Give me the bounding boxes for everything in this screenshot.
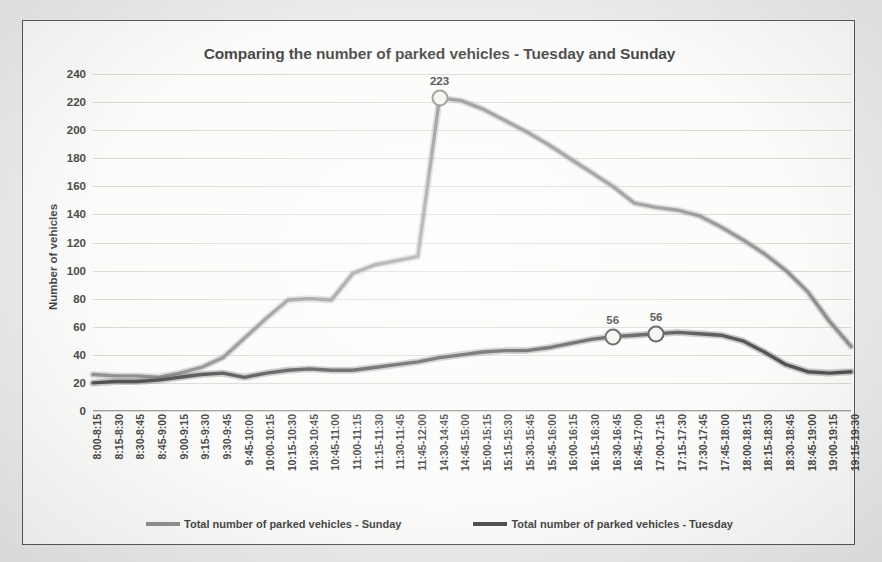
x-axis-tick: 16:00-16:15 [567, 414, 579, 471]
data-point-label: 56 [650, 311, 663, 323]
x-axis-tick: 10:15-10:30 [286, 414, 298, 471]
x-axis-tick: 17:00-17:15 [654, 414, 666, 471]
x-axis-tick: 16:30-16:45 [611, 414, 623, 471]
x-axis-tick: 15:15-15:30 [502, 414, 514, 471]
y-axis-tick: 100 [67, 265, 86, 277]
x-axis-tick: 9:30-9:45 [221, 414, 233, 460]
x-axis-tick: 15:30-15:45 [524, 414, 536, 471]
legend-item-tuesday[interactable]: Total number of parked vehicles - Tuesda… [473, 518, 732, 530]
x-axis-tick: 8:45-9:00 [156, 414, 168, 460]
data-point-label: 56 [606, 314, 619, 326]
x-axis-tick: 9:45-10:00 [243, 414, 255, 465]
x-axis-labels: 8:00-8:158:15-8:308:30-8:458:45-9:009:00… [93, 414, 851, 509]
x-axis-tick: 10:00-10:15 [264, 414, 276, 471]
x-axis-tick: 11:30-11:45 [394, 414, 406, 470]
data-point-marker [648, 325, 665, 342]
x-axis-tick: 15:45-16:00 [546, 414, 558, 471]
x-axis-tick: 18:45-19:00 [806, 414, 818, 471]
y-axis-tick: 120 [67, 237, 86, 249]
y-axis-tick: 60 [73, 321, 86, 333]
x-axis-tick: 17:45-18:00 [719, 414, 731, 471]
chart-title: Comparing the number of parked vehicles … [23, 45, 856, 63]
chart-container: Comparing the number of parked vehicles … [22, 20, 855, 545]
x-axis-tick: 11:15-11:30 [373, 414, 385, 470]
legend-label-sunday: Total number of parked vehicles - Sunday [184, 518, 401, 530]
y-axis-tick: 220 [67, 96, 86, 108]
y-axis-tick: 20 [73, 377, 86, 389]
y-axis-tick: 240 [67, 68, 86, 80]
x-axis-tick: 19:15-19:30 [849, 414, 861, 471]
y-axis-tick: 140 [67, 208, 86, 220]
x-axis-tick: 8:30-8:45 [134, 414, 146, 460]
x-axis-tick: 18:15-18:30 [762, 414, 774, 471]
y-axis-label: Number of vehicles [47, 204, 59, 310]
y-axis-tick: 200 [67, 124, 86, 136]
x-axis-tick: 9:00-9:15 [178, 414, 190, 460]
x-axis-tick: 11:45-12:00 [416, 414, 428, 471]
x-axis-tick: 17:15-17:30 [676, 414, 688, 471]
x-axis-tick: 15:00-15:15 [481, 414, 493, 471]
x-axis-tick: 16:15-16:30 [589, 414, 601, 471]
y-axis-tick: 80 [73, 293, 86, 305]
x-axis-tick: 8:00-8:15 [91, 414, 103, 460]
x-axis-tick: 17:30-17:45 [697, 414, 709, 471]
y-axis-tick: 40 [73, 349, 86, 361]
data-point-marker [431, 89, 448, 106]
gridline: 0 [93, 411, 851, 412]
data-point-label: 223 [430, 75, 449, 87]
x-axis-tick: 18:00-18:15 [741, 414, 753, 471]
x-axis-tick: 10:30-10:45 [308, 414, 320, 471]
x-axis-tick: 18:30-18:45 [784, 414, 796, 471]
x-axis-tick: 8:15-8:30 [113, 414, 125, 460]
x-axis-tick: 11:00-11:15 [351, 414, 363, 470]
y-axis-tick: 180 [67, 152, 86, 164]
x-axis-tick: 16:45-17:00 [632, 414, 644, 471]
y-axis-tick: 0 [80, 405, 86, 417]
data-point-marker [604, 328, 621, 345]
x-axis-tick: 9:15-9:30 [199, 414, 211, 460]
series-lines [93, 74, 851, 411]
legend-label-tuesday: Total number of parked vehicles - Tuesda… [511, 518, 732, 530]
y-axis-tick: 160 [67, 180, 86, 192]
legend-item-sunday[interactable]: Total number of parked vehicles - Sunday [146, 518, 401, 530]
legend-swatch-tuesday [473, 522, 507, 526]
x-axis-tick: 14:45-15:00 [459, 414, 471, 471]
legend-swatch-sunday [146, 522, 180, 526]
chart-legend: Total number of parked vehicles - Sunday… [23, 518, 856, 530]
x-axis-tick: 19:00-19:15 [827, 414, 839, 471]
x-axis-tick: 14:30-14:45 [438, 414, 450, 471]
x-axis-tick: 10:45-11:00 [329, 414, 341, 471]
plot-area: 240220200180160140120100806040200 223565… [93, 74, 851, 411]
